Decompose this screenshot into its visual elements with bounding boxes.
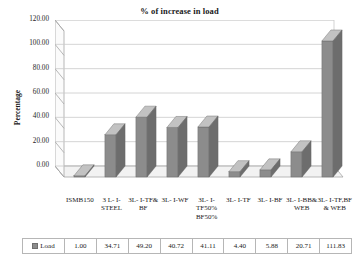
plot-area xyxy=(55,20,352,192)
y-tick-label-0: 0.00 xyxy=(9,161,49,169)
y-axis-title: Percentage xyxy=(13,68,22,148)
x-category-label-line: BF xyxy=(139,204,148,212)
bar-4 xyxy=(198,116,218,177)
bar-1 xyxy=(105,124,125,177)
x-category-label-line: BF50% xyxy=(196,213,217,221)
x-category-label-4: 3L- I-TF50%BF50% xyxy=(191,196,223,236)
legend-label: Load xyxy=(40,242,54,250)
data-table-cell-3: 40.72 xyxy=(161,239,193,253)
x-category-label-line: 3L- I-WF xyxy=(161,196,188,204)
x-category-label-line: TF50% xyxy=(196,204,217,212)
data-table-cell-8: 111.83 xyxy=(320,239,351,253)
y-tick-label-5: 100.00 xyxy=(9,39,49,47)
data-table-cell-2: 49.20 xyxy=(129,239,161,253)
x-category-label-1: 3 L- I-STEEL xyxy=(96,196,128,236)
data-table-cell-7: 20.71 xyxy=(288,239,320,253)
data-table-cell-5: 4.40 xyxy=(224,239,256,253)
bar-2 xyxy=(136,106,156,177)
legend-entry-load: Load xyxy=(23,239,65,253)
y-tick-label-1: 20.00 xyxy=(9,137,49,145)
x-category-label-line: WEB xyxy=(294,204,310,212)
x-category-label-line: 3L- I-TF xyxy=(226,196,251,204)
x-category-label-line: & WEB xyxy=(323,204,346,212)
x-category-label-line: ISMB150 xyxy=(66,196,94,204)
x-category-label-line: 3L- I- xyxy=(198,196,215,204)
x-category-label-line: STEEL xyxy=(101,204,122,212)
y-tick-label-4: 80.00 xyxy=(9,64,49,72)
data-table-cell-6: 5.88 xyxy=(256,239,288,253)
y-tick-label-2: 40.00 xyxy=(9,112,49,120)
plot-svg xyxy=(55,20,352,192)
chart-title: % of increase in load xyxy=(0,6,359,16)
chart-container: % of increase in load Percentage 0.0020.… xyxy=(0,0,359,261)
y-tick-label-6: 120.00 xyxy=(9,15,49,23)
x-category-label-7: 3L- I-BB&WEB xyxy=(286,196,318,236)
x-category-label-8: 3L- I-TF,BF& WEB xyxy=(318,196,352,236)
x-category-label-6: 3L- I-BF xyxy=(254,196,286,236)
x-category-label-3: 3L- I-WF xyxy=(159,196,191,236)
x-category-label-line: 3 L- I- xyxy=(102,196,120,204)
x-category-label-line: 3L- I-TF& xyxy=(128,196,158,204)
x-category-label-2: 3L- I-TF&BF xyxy=(127,196,159,236)
data-table-cell-1: 34.71 xyxy=(97,239,129,253)
data-table-cell-4: 41.11 xyxy=(193,239,225,253)
x-category-label-line: 3L- I-BF xyxy=(257,196,282,204)
x-category-label-0: ISMB150 xyxy=(64,196,96,236)
data-table-cell-0: 1.00 xyxy=(65,239,97,253)
x-axis-category-labels: ISMB1503 L- I-STEEL3L- I-TF&BF3L- I-WF3L… xyxy=(64,196,352,236)
x-category-label-5: 3L- I-TF xyxy=(222,196,254,236)
bar-3 xyxy=(167,116,187,177)
x-category-label-line: 3L- I-TF,BF xyxy=(318,196,352,204)
x-category-label-line: 3L- I-BB& xyxy=(286,196,317,204)
legend-swatch-icon xyxy=(32,243,38,249)
data-table: Load 1.0034.7149.2040.7241.114.405.8820.… xyxy=(22,238,352,254)
bar-8 xyxy=(322,30,342,177)
y-tick-label-3: 60.00 xyxy=(9,88,49,96)
